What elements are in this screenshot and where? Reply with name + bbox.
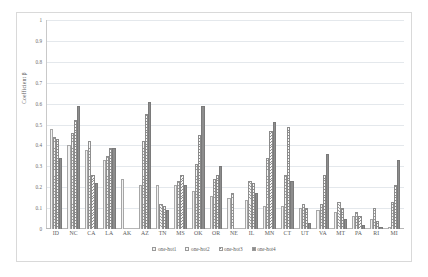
legend-label: one-hot2 [191, 246, 209, 252]
x-axis-tick-label: UT [296, 230, 314, 236]
y-axis-tick-label: 0 [12, 226, 42, 232]
legend-label: one-hot3 [224, 246, 242, 252]
x-axis-tick-label: NC [65, 230, 83, 236]
x-axis-tick-label: PA [350, 230, 368, 236]
y-axis-tick-label: 0.4 [12, 142, 42, 148]
x-axis-tick-label: OR [207, 230, 225, 236]
bar [255, 193, 258, 229]
x-axis-tick-label: IL [243, 230, 261, 236]
y-axis-tick-label: 0.2 [12, 184, 42, 190]
x-axis-tick-label: LA [100, 230, 118, 236]
bar-group [207, 20, 225, 229]
bar-group [296, 20, 314, 229]
bar [201, 106, 204, 229]
x-axis-tick-label: RI [367, 230, 385, 236]
bar-group [83, 20, 101, 229]
x-axis-tick-label: MN [261, 230, 279, 236]
x-axis-tick-label: OK [189, 230, 207, 236]
x-axis-tick-label: ID [47, 230, 65, 236]
legend-item[interactable]: one-hot2 [185, 246, 209, 252]
bar [397, 160, 400, 229]
y-axis-tick-label: 0.6 [12, 101, 42, 107]
bar-group [136, 20, 154, 229]
bar-group [189, 20, 207, 229]
legend-item[interactable]: one-hot4 [252, 246, 276, 252]
x-axis-tick-label: TN [154, 230, 172, 236]
legend-item[interactable]: one-hot3 [219, 246, 243, 252]
x-axis-tick-label: VA [314, 230, 332, 236]
y-axis-tick-label: 0.3 [12, 163, 42, 169]
bar-group [350, 20, 368, 229]
x-axis-tick-label: CA [83, 230, 101, 236]
bar [112, 148, 115, 230]
y-axis-title: Coefficient β [21, 72, 27, 104]
legend-item[interactable]: one-hot1 [152, 246, 176, 252]
legend-swatch-icon [152, 247, 156, 251]
bar-group [225, 20, 243, 229]
legend: one-hot1one-hot2one-hot3one-hot4 [0, 246, 428, 252]
bar [121, 179, 124, 229]
x-axis-tick-label: AZ [136, 230, 154, 236]
bar [308, 223, 311, 229]
y-axis-tick-label: 1 [12, 17, 42, 23]
y-axis-tick-label: 0.5 [12, 122, 42, 128]
x-axis-tick-label: NE [225, 230, 243, 236]
bar [184, 185, 187, 229]
y-axis-tick-label: 0.1 [12, 205, 42, 211]
bar-group [261, 20, 279, 229]
bar-group [118, 20, 136, 229]
x-axis-tick-label: MI [385, 230, 403, 236]
bar-group [278, 20, 296, 229]
y-axis-tick-label: 0.7 [12, 80, 42, 86]
bar [59, 158, 62, 229]
bar-group [47, 20, 65, 229]
bar [326, 154, 329, 229]
x-axis-tick-labels: IDNCCALAAKAZTNMSOKORNEILMNCTUTVAMTPARIMI [46, 230, 404, 236]
bar-group [100, 20, 118, 229]
bar [290, 181, 293, 229]
bar-group [332, 20, 350, 229]
bar-group [385, 20, 403, 229]
bar-group [243, 20, 261, 229]
plot-area [46, 20, 404, 229]
bar [77, 106, 80, 229]
bar-group [314, 20, 332, 229]
y-axis-tick-label: 0.8 [12, 59, 42, 65]
bar [95, 183, 98, 229]
bar [362, 225, 365, 229]
y-axis-tick-label: 0.9 [12, 38, 42, 44]
bar-group [154, 20, 172, 229]
bar-chart: Coefficient β 10.90.80.70.60.50.40.30.20… [0, 0, 428, 277]
legend-label: one-hot4 [257, 246, 275, 252]
bar [166, 210, 169, 229]
legend-label: one-hot1 [158, 246, 176, 252]
legend-swatch-icon [252, 247, 256, 251]
bar [231, 193, 234, 229]
legend-swatch-icon [219, 247, 223, 251]
bar-group [367, 20, 385, 229]
bar [344, 219, 347, 229]
x-axis-tick-label: MT [332, 230, 350, 236]
bar [148, 102, 151, 229]
x-axis-tick-label: MS [172, 230, 190, 236]
legend-swatch-icon [185, 247, 189, 251]
bar [273, 122, 276, 229]
bar [219, 166, 222, 229]
bar-group [172, 20, 190, 229]
bar-groups [46, 20, 404, 229]
bar [379, 227, 382, 229]
bar-group [65, 20, 83, 229]
x-axis-tick-label: CT [278, 230, 296, 236]
x-axis-tick-label: AK [118, 230, 136, 236]
